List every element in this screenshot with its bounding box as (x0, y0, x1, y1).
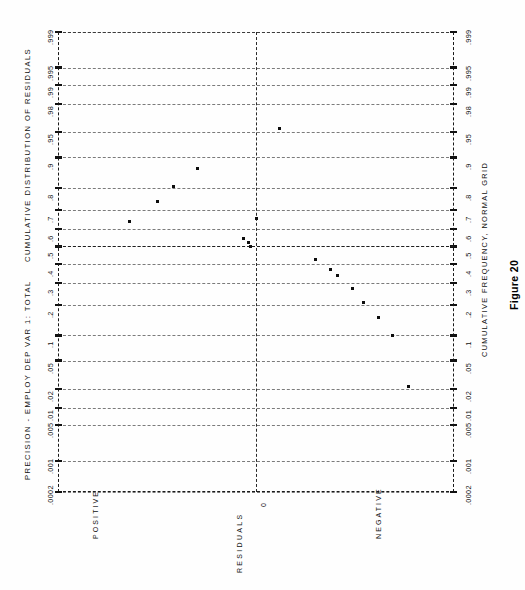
axis-tick (450, 103, 457, 105)
axis-tick-label: .5 (464, 253, 473, 260)
axis-tick (450, 263, 457, 265)
axis-tick (55, 491, 62, 493)
axis-tick (450, 491, 457, 493)
figure-page: PRECISION - EMPLOY DEP VAR 1: TOTAL CUMU… (0, 0, 525, 590)
y-axis-title: RESIDUALS (236, 513, 243, 573)
axis-tick-label: .9 (46, 164, 55, 171)
axis-tick-label: .4 (46, 270, 55, 277)
axis-tick (450, 228, 457, 230)
grid-line (58, 132, 454, 133)
axis-tick (450, 424, 457, 426)
axis-tick (450, 334, 457, 336)
data-point (196, 167, 199, 170)
data-point (329, 268, 332, 271)
zero-residual-line (256, 32, 257, 492)
axis-tick-label: .9 (464, 164, 473, 171)
grid-line (58, 85, 454, 86)
data-point (362, 301, 365, 304)
grid-line (58, 361, 454, 362)
axis-tick (450, 304, 457, 306)
axis-tick (55, 66, 62, 68)
grid-line (58, 68, 454, 69)
axis-tick (450, 359, 457, 361)
axis-tick (450, 407, 457, 409)
axis-tick (450, 84, 457, 86)
grid-line (58, 335, 454, 336)
x-axis-title: CUMULATIVE FREQUENCY, NORMAL GRID (481, 162, 488, 357)
axis-tick (55, 228, 62, 230)
grid-line (58, 104, 454, 105)
grid-line (58, 32, 454, 33)
axis-tick-label: .999 (46, 30, 55, 45)
axis-tick-label: .98 (464, 106, 473, 117)
axis-tick-label: .95 (464, 134, 473, 145)
grid-line (58, 305, 454, 306)
axis-tick (450, 187, 457, 189)
axis-tick (450, 460, 457, 462)
axis-tick-label: .7 (464, 216, 473, 223)
grid-line (58, 389, 454, 390)
grid-line (58, 492, 454, 493)
axis-tick-label: .8 (464, 194, 473, 201)
axis-tick-label: .8 (46, 194, 55, 201)
axis-tick (450, 131, 457, 133)
axis-tick-label: .6 (46, 235, 55, 242)
axis-tick-label: .95 (46, 134, 55, 145)
figure-number: Figure 20 (509, 260, 520, 310)
data-point (247, 241, 250, 244)
data-point (255, 217, 258, 220)
data-point (249, 245, 252, 248)
residual-axis-tick-label: 0 (260, 501, 267, 507)
axis-tick (55, 156, 62, 158)
axis-tick (450, 388, 457, 390)
axis-tick-label: .05 (46, 362, 55, 373)
grid-line (58, 425, 454, 426)
data-point (336, 274, 339, 277)
axis-tick (55, 424, 62, 426)
data-point (314, 258, 317, 261)
axis-tick-label: .001 (464, 458, 473, 473)
axis-tick (55, 304, 62, 306)
axis-tick (55, 103, 62, 105)
axis-tick-label: .0002 (46, 485, 55, 505)
axis-tick-label: .995 (464, 65, 473, 80)
axis-tick (55, 263, 62, 265)
median-frequency-line (58, 246, 454, 247)
axis-tick (55, 460, 62, 462)
axis-tick-label: .3 (464, 289, 473, 296)
data-point (156, 200, 159, 203)
axis-tick-label: .02 (46, 391, 55, 402)
figure-title: CUMULATIVE DISTRIBUTION OF RESIDUALS (24, 48, 32, 262)
axis-tick-label: .2 (464, 311, 473, 318)
grid-line (58, 157, 454, 158)
grid-line (58, 210, 454, 211)
axis-tick-label: .99 (46, 87, 55, 98)
axis-tick-label: .3 (46, 289, 55, 296)
axis-tick (55, 282, 62, 284)
axis-tick (55, 131, 62, 133)
grid-line (58, 188, 454, 189)
axis-tick-label: .01 (464, 410, 473, 421)
axis-tick-label: .1 (464, 342, 473, 349)
axis-tick-label: .001 (46, 458, 55, 473)
data-point (128, 220, 131, 223)
axis-tick (55, 209, 62, 211)
grid-line (58, 461, 454, 462)
data-point (172, 185, 175, 188)
grid-line (58, 264, 454, 265)
figure-subtitle: PRECISION - EMPLOY DEP VAR 1: TOTAL (24, 280, 32, 480)
axis-tick-label: .99 (464, 87, 473, 98)
axis-tick (55, 407, 62, 409)
axis-tick (55, 31, 62, 33)
data-point (377, 316, 380, 319)
axis-tick-label: .005 (46, 423, 55, 438)
axis-tick-label: .0002 (464, 485, 473, 505)
axis-tick (55, 359, 62, 361)
axis-tick (55, 334, 62, 336)
axis-tick-label: .4 (464, 270, 473, 277)
axis-tick-label: .98 (46, 106, 55, 117)
data-point (278, 127, 281, 130)
axis-tick (450, 282, 457, 284)
axis-tick (55, 388, 62, 390)
axis-tick-label: .1 (46, 342, 55, 349)
